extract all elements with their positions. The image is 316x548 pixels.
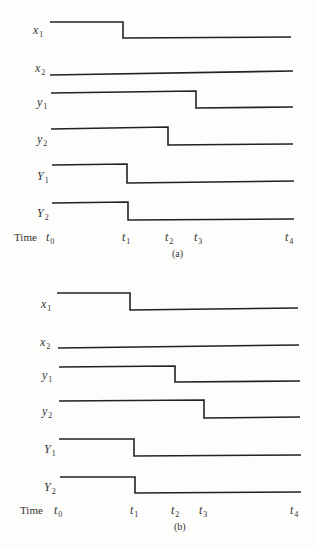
signal-label-Y1-a: Y1 [37, 170, 49, 185]
time-tick-t4-a: t4 [285, 231, 293, 246]
time-axis-label-a: Time [14, 232, 37, 243]
waveform-y2-a [51, 127, 293, 145]
panel-caption-b: (b) [174, 522, 186, 532]
waveform-x2-b [58, 345, 299, 348]
time-axis-label-b: Time [20, 505, 43, 516]
signal-label-y1-b: y1 [42, 369, 52, 384]
signal-label-y2-b: y2 [42, 405, 52, 420]
waveform-canvas [0, 0, 316, 548]
waveform-x1-b [57, 293, 298, 310]
signal-label-Y2-b: Y2 [44, 481, 56, 496]
time-tick-t3-a: t3 [194, 231, 202, 246]
signal-label-x2-b: x2 [40, 336, 50, 351]
time-tick-t4-b: t4 [290, 504, 298, 519]
signal-label-y2-a: y2 [37, 133, 47, 148]
signal-label-Y2-a: Y2 [37, 207, 49, 222]
waveform-y1-b [59, 366, 300, 382]
waveform-Y2-a [52, 202, 294, 220]
waveform-y1-a [51, 91, 293, 108]
time-tick-t1-a: t1 [122, 231, 130, 246]
waveform-Y1-a [52, 164, 294, 183]
waveform-y2-b [59, 400, 300, 418]
signal-label-x2-a: x2 [35, 62, 45, 77]
waveform-Y1-b [59, 439, 301, 456]
signal-label-x1-b: x1 [41, 298, 51, 313]
waveform-x2-a [50, 71, 293, 75]
signal-label-Y1-b: Y1 [44, 443, 56, 458]
time-tick-t3-b: t3 [199, 504, 207, 519]
time-tick-t1-b: t1 [130, 504, 138, 519]
time-tick-t0-b: t0 [54, 504, 62, 519]
panel-caption-a: (a) [172, 249, 183, 259]
signal-label-x1-a: x1 [33, 24, 43, 39]
time-tick-t2-a: t2 [165, 231, 173, 246]
time-tick-t2-b: t2 [171, 504, 179, 519]
signal-label-y1-a: y1 [37, 96, 47, 111]
waveform-Y2-b [60, 477, 301, 493]
waveform-x1-a [50, 22, 291, 38]
time-tick-t0-a: t0 [46, 231, 54, 246]
